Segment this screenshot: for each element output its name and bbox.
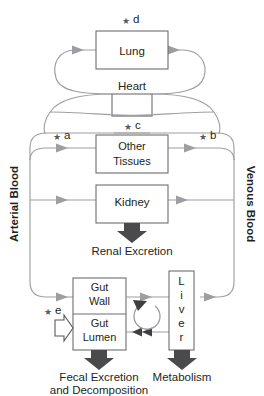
other-tissues-label-line1: Other	[118, 140, 146, 152]
flow-gut-wall-to-liver	[126, 293, 169, 302]
metabolism-label: Metabolism	[153, 371, 212, 383]
arterial-blood-label: Arterial Blood	[8, 166, 20, 242]
star-d-label: d	[133, 13, 139, 25]
gut-lumen-label-line1: Gut	[91, 317, 109, 329]
arrow-arterial-to-other-tissues	[56, 144, 68, 153]
liver-letter-1: L	[178, 275, 185, 287]
star-marker-b: ★ b	[199, 129, 216, 142]
star-marker-c: ★ c	[124, 119, 141, 132]
star-d-glyph: ★	[122, 16, 130, 26]
gut-wall-label-line2: Wall	[89, 295, 110, 307]
star-marker-a: ★ a	[53, 129, 71, 142]
arrow-liver-to-venous	[204, 293, 216, 302]
enterohepatic-recirculation-icon	[133, 300, 160, 329]
pbpk-flow-diagram: Lung ★ d Heart	[0, 0, 264, 396]
compartment-heart[interactable]	[112, 94, 152, 116]
star-e-glyph: ★	[44, 307, 52, 317]
compartment-gut[interactable]: Gut Wall Gut Lumen	[73, 278, 126, 350]
metabolism-arrow	[167, 350, 197, 370]
star-c-glyph: ★	[124, 122, 132, 132]
gut-lumen-label-line2: Lumen	[83, 331, 117, 343]
compartment-other-tissues[interactable]: Other Tissues	[96, 135, 168, 173]
arrow-arterial-to-gut	[56, 293, 68, 302]
star-b-glyph: ★	[199, 132, 207, 142]
fecal-excretion-label-line2: and Decomposition	[50, 384, 148, 396]
compartment-liver[interactable]: L i v e r	[169, 271, 194, 350]
renal-excretion-label: Renal Excretion	[91, 245, 172, 257]
compartment-lung[interactable]: Lung	[96, 31, 168, 69]
lung-label: Lung	[119, 45, 145, 57]
arrow-other-tissues-to-venous	[184, 144, 196, 153]
star-e-label: e	[55, 304, 61, 316]
star-b-label: b	[210, 129, 216, 141]
liver-letter-3: v	[179, 303, 185, 315]
star-marker-d: ★ d	[122, 13, 139, 26]
star-a-label: a	[64, 129, 71, 141]
arrow-kidney-to-venous	[176, 196, 188, 205]
star-marker-e: ★ e	[44, 304, 61, 317]
arrow-arterial-to-kidney	[56, 196, 68, 205]
compartment-kidney[interactable]: Kidney	[96, 185, 168, 223]
heart-label: Heart	[118, 80, 147, 92]
liver-letter-5: r	[180, 331, 184, 343]
fecal-excretion-label-line1: Fecal Excretion	[59, 371, 138, 383]
other-tissues-label-line2: Tissues	[113, 155, 151, 167]
fecal-excretion-arrow	[84, 350, 114, 370]
gut-wall-label-line1: Gut	[91, 281, 109, 293]
kidney-label: Kidney	[114, 196, 149, 208]
venous-blood-label: Venous Blood	[245, 166, 257, 243]
renal-excretion-arrow	[117, 223, 147, 243]
liver-letter-2: i	[180, 289, 183, 301]
diagram-canvas: Lung ★ d Heart	[0, 0, 264, 396]
star-c-label: c	[135, 119, 141, 131]
liver-letter-4: e	[178, 317, 184, 329]
oral-dose-input-arrow	[55, 315, 73, 341]
star-a-glyph: ★	[53, 132, 61, 142]
